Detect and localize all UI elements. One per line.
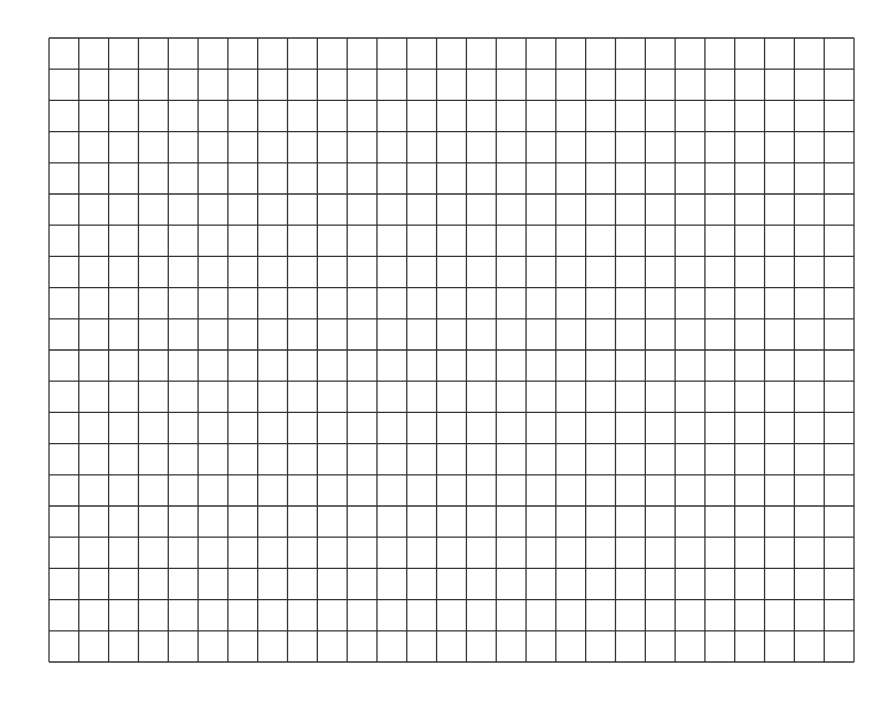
grid-paper [48,37,853,661]
grid-lines [48,37,855,663]
